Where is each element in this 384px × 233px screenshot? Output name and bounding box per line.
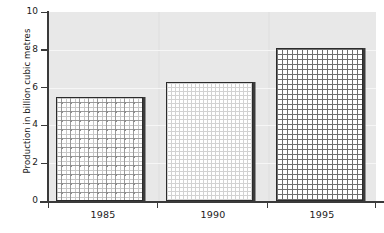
x-tick-right	[375, 202, 376, 208]
x-tick-left	[48, 202, 49, 208]
y-tick-10	[41, 12, 47, 13]
y-axis-line	[47, 11, 49, 202]
y-tick-label-6: 6	[0, 82, 38, 92]
x-tick-label-1990: 1990	[182, 209, 244, 220]
y-tick-2	[41, 163, 47, 164]
bar-1990	[166, 82, 253, 201]
bar-1985	[56, 97, 143, 201]
y-tick-0	[41, 201, 47, 202]
y-tick-4	[41, 125, 47, 126]
x-tick-1	[157, 202, 158, 208]
y-tick-8	[41, 49, 47, 50]
y-tick-label-2: 2	[0, 157, 38, 167]
y-axis-title: Production in billion cubic metres	[22, 6, 32, 196]
bar-1995	[276, 48, 363, 201]
x-axis-line	[40, 201, 384, 203]
plot-area	[48, 12, 376, 201]
y-tick-label-10: 10	[0, 6, 38, 16]
y-tick-label-8: 8	[0, 44, 38, 54]
y-tick-label-4: 4	[0, 119, 38, 129]
x-tick-label-1995: 1995	[291, 209, 353, 220]
y-tick-label-0: 0	[0, 195, 38, 205]
x-tick-label-1985: 1985	[72, 209, 134, 220]
bar-chart: Production in billion cubic metres 10 8 …	[0, 0, 384, 233]
x-tick-2	[267, 202, 268, 208]
y-tick-6	[41, 87, 47, 88]
